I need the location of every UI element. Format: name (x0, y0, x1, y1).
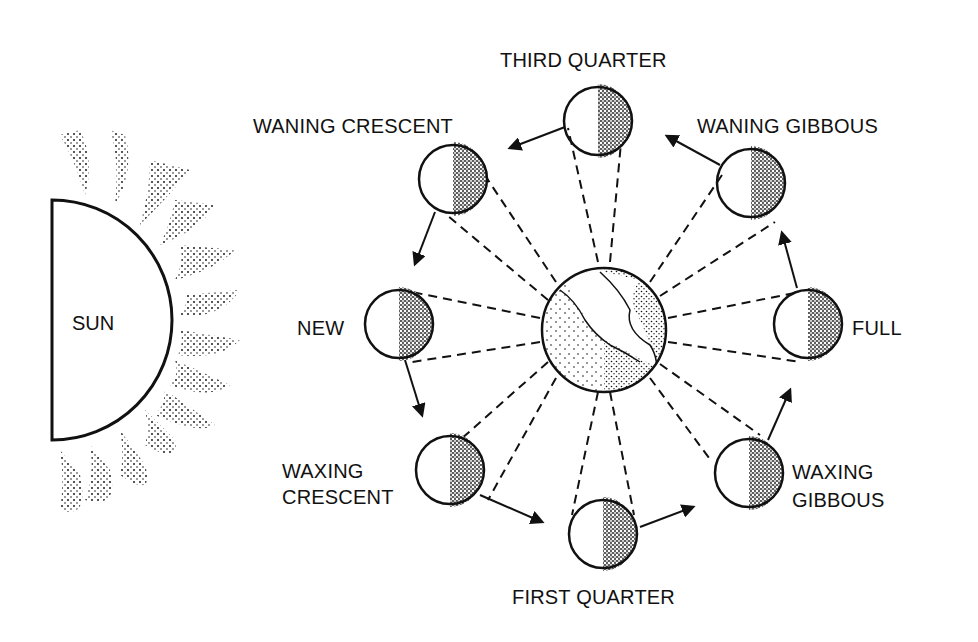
label-third-quarter: THIRD QUARTER (500, 48, 667, 72)
label-new: NEW (297, 316, 344, 340)
moon-full (774, 287, 842, 361)
label-waning-crescent: WANING CRESCENT (253, 114, 453, 138)
label-waxing-gibbous: WAXING GIBBOUS (792, 458, 885, 514)
label-waxing-gibbous-line1: WAXING (792, 458, 885, 486)
label-waning-gibbous: WANING GIBBOUS (697, 114, 878, 138)
earth (540, 266, 668, 394)
label-waxing-crescent-line1: WAXING (282, 458, 394, 484)
moon-first-quarter (569, 497, 637, 571)
label-waxing-crescent: WAXING CRESCENT (282, 458, 394, 510)
moon-phases-diagram: SUN (0, 0, 978, 642)
diagram-canvas: SUN (0, 0, 978, 642)
label-full: FULL (852, 316, 902, 340)
label-waxing-crescent-line2: CRESCENT (282, 484, 394, 510)
sun-label: SUN (72, 312, 114, 334)
moon-third-quarter (564, 84, 632, 158)
moon-waxing-crescent (416, 433, 484, 507)
moon-new (365, 287, 433, 361)
moon-waning-gibbous (717, 146, 785, 220)
moon-waning-crescent (419, 142, 487, 216)
label-waxing-gibbous-line2: GIBBOUS (792, 486, 885, 514)
moon-waxing-gibbous (715, 436, 783, 510)
label-first-quarter: FIRST QUARTER (512, 585, 675, 609)
